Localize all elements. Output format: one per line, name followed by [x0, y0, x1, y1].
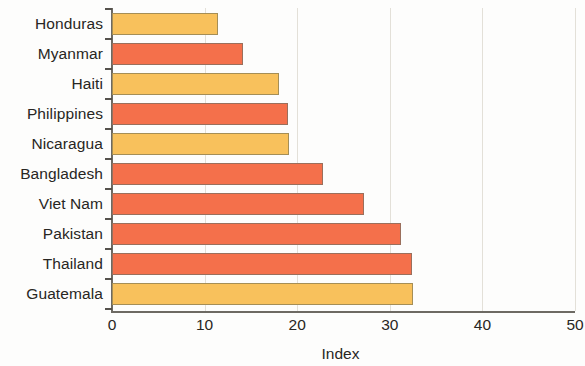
- bar-nicaragua: [112, 133, 289, 155]
- bar-row: [112, 103, 288, 125]
- gridline-50: [575, 8, 576, 311]
- bar-row: [112, 73, 279, 95]
- bar-pakistan: [112, 223, 401, 245]
- x-tick-label-10: 10: [185, 316, 225, 334]
- y-axis-tick: [105, 248, 112, 250]
- x-axis-line: [111, 311, 575, 313]
- category-label-honduras: Honduras: [35, 15, 103, 33]
- y-axis-tick: [105, 8, 112, 10]
- y-axis-tick: [105, 278, 112, 280]
- bar-honduras: [112, 13, 218, 35]
- bar-bangladesh: [112, 163, 323, 185]
- y-axis-tick: [105, 98, 112, 100]
- category-label-nicaragua: Nicaragua: [31, 135, 103, 153]
- x-axis-title: Index: [0, 345, 585, 363]
- bar-guatemala: [112, 283, 413, 305]
- category-label-philippines: Philippines: [27, 105, 103, 123]
- y-axis-tick: [105, 128, 112, 130]
- y-axis-tick: [105, 158, 112, 160]
- y-axis-tick: [105, 38, 112, 40]
- y-axis-tick: [105, 188, 112, 190]
- category-label-guatemala: Guatemala: [26, 285, 103, 303]
- x-tick-label-20: 20: [277, 316, 317, 334]
- bar-thailand: [112, 253, 412, 275]
- bar-haiti: [112, 73, 279, 95]
- x-tick-label-50: 50: [555, 316, 585, 334]
- bar-row: [112, 133, 289, 155]
- y-axis-tick: [105, 218, 112, 220]
- x-tick-label-40: 40: [462, 316, 502, 334]
- gridline-40: [482, 8, 483, 311]
- category-label-haiti: Haiti: [71, 75, 103, 93]
- bar-row: [112, 223, 401, 245]
- category-label-bangladesh: Bangladesh: [20, 165, 103, 183]
- bar-row: [112, 283, 413, 305]
- bar-myanmar: [112, 43, 243, 65]
- category-label-viet-nam: Viet Nam: [39, 195, 103, 213]
- bar-row: [112, 13, 218, 35]
- bar-row: [112, 193, 364, 215]
- category-label-pakistan: Pakistan: [43, 225, 103, 243]
- horizontal-bar-chart: HondurasMyanmarHaitiPhilippinesNicaragua…: [0, 0, 585, 366]
- x-tick-label-30: 30: [370, 316, 410, 334]
- x-tick-label-0: 0: [92, 316, 132, 334]
- bar-row: [112, 253, 412, 275]
- category-label-myanmar: Myanmar: [38, 45, 103, 63]
- category-label-thailand: Thailand: [43, 255, 103, 273]
- x-axis-title-text: Index: [322, 345, 360, 363]
- bar-row: [112, 43, 243, 65]
- bar-philippines: [112, 103, 288, 125]
- bar-viet-nam: [112, 193, 364, 215]
- bar-row: [112, 163, 323, 185]
- y-axis-tick: [105, 68, 112, 70]
- y-axis-tick: [105, 308, 112, 310]
